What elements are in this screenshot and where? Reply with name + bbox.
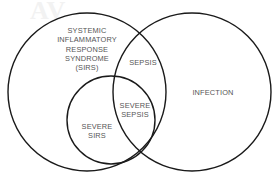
label-sepsis: SEPSIS (113, 58, 173, 67)
venn-diagram: AV SYSTEMIC INFLAMMATORY RESPONSE SYNDRO… (0, 0, 280, 184)
label-infection: INFECTION (173, 88, 253, 97)
label-severe-sepsis: SEVERE SEPSIS (105, 101, 165, 120)
label-severe-sirs: SEVERE SIRS (66, 122, 128, 141)
circle-severe-sirs (67, 76, 155, 164)
